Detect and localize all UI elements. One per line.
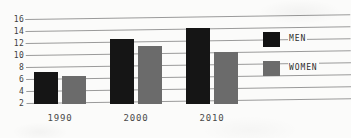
- x-tick-label-1990: 1990: [34, 114, 86, 123]
- x-tick-label-2010: 2010: [186, 114, 238, 123]
- black-swatch-icon: [263, 32, 280, 47]
- legend-item-women: WOMEN: [263, 57, 349, 79]
- chart-legend: MEN WOMEN: [263, 28, 349, 79]
- y-tick-label: 10: [2, 52, 24, 60]
- y-tick-label: 12: [2, 40, 24, 48]
- legend-label-men: MEN: [288, 33, 307, 45]
- y-tick-label: 4: [2, 88, 24, 96]
- y-tick-label: 16: [2, 16, 24, 24]
- y-tick-label: 8: [2, 64, 24, 72]
- legend-item-men: MEN: [263, 28, 349, 50]
- y-tick-label: 14: [2, 28, 24, 36]
- y-tick-label: 2: [2, 100, 24, 108]
- y-axis-labels: 16 14 12 10 8 6 4 2: [0, 0, 24, 138]
- gray-swatch-icon: [263, 61, 280, 76]
- bar-chart: 16 14 12 10 8 6 4 2: [0, 0, 351, 138]
- x-tick-label-2000: 2000: [110, 114, 162, 123]
- y-tick-label: 6: [2, 76, 24, 84]
- legend-label-women: WOMEN: [288, 62, 319, 74]
